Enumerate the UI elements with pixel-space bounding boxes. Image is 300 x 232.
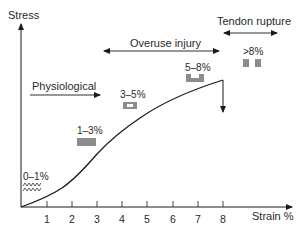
x-tick-4: 4 <box>119 213 125 225</box>
x-axis-label: Strain % <box>252 210 294 222</box>
y-axis-label: Stress <box>8 9 39 21</box>
overuse-injury-label: Overuse injury <box>130 37 201 49</box>
split-blocks-icon <box>243 59 261 67</box>
annotation-3-5: 3–5% <box>120 89 146 101</box>
chart-canvas <box>0 0 300 232</box>
annotation-over-8: >8% <box>243 46 263 58</box>
x-tick-5: 5 <box>144 213 150 225</box>
x-tick-1: 1 <box>44 213 50 225</box>
tendon-rupture-label: Tendon rupture <box>217 15 291 27</box>
x-axis <box>21 201 292 207</box>
annotation-5-8: 5–8% <box>185 62 211 74</box>
wavy-fibers-icon <box>23 183 41 191</box>
x-tick-8: 8 <box>220 213 226 225</box>
x-tick-6: 6 <box>170 213 176 225</box>
x-tick-2: 2 <box>69 213 75 225</box>
x-tick-3: 3 <box>94 213 100 225</box>
annotation-1-3: 1–3% <box>77 125 103 137</box>
x-tick-7: 7 <box>195 213 201 225</box>
u-shaped-block-icon <box>186 74 204 82</box>
solid-fiber-block-icon <box>77 138 96 146</box>
block-with-gap-icon <box>123 102 137 109</box>
annotation-0-1: 0–1% <box>23 171 49 183</box>
physiological-label: Physiological <box>32 80 96 92</box>
